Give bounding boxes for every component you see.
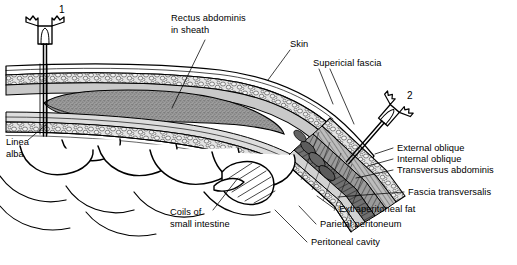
label-fascia-transversalis: Fascia transversalis	[408, 187, 491, 197]
label-parietal-peritoneum: Parietal peritoneum	[320, 219, 402, 229]
label-superficial-fascia: Supericial fascia	[313, 58, 382, 68]
needle-1-number: 1	[59, 4, 65, 15]
label-linea-alba-line2: alba	[6, 149, 25, 159]
label-coils-line1: Coils of	[170, 207, 202, 217]
abdominal-wall-diagram: 1 2 Rectus abdominis in sheath Skin Supe…	[0, 0, 517, 265]
needle-2-number: 2	[407, 90, 413, 101]
label-skin: Skin	[290, 39, 308, 49]
label-rectus-abdominis-line2: in sheath	[171, 25, 209, 35]
label-linea-alba-line1: Linea	[6, 137, 30, 147]
anatomical-figure: 1 2 Rectus abdominis in sheath Skin Supe…	[0, 0, 517, 265]
label-peritoneal-cavity: Peritoneal cavity	[311, 237, 380, 247]
label-rectus-abdominis-line1: Rectus abdominis	[171, 13, 246, 23]
label-external-oblique: External oblique	[397, 143, 464, 153]
label-internal-oblique: Internal oblique	[397, 154, 461, 164]
label-coils-line2: small intestine	[170, 219, 230, 229]
label-transversus-abdominis: Transversus abdominis	[397, 165, 494, 175]
label-extraperitoneal-fat: Extraperitoneal fat	[339, 204, 416, 214]
